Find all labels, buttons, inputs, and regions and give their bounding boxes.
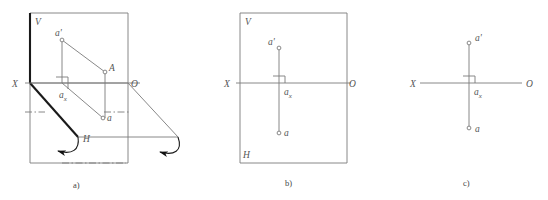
panel-c-label-a-prime: a' [475, 33, 483, 43]
figure-container: V X O a' A a H ax V H X O a' a ax X O a'… [0, 0, 548, 200]
panel-a-label-a-prime: a' [55, 28, 63, 38]
panel-b-label-axis-o: O [349, 79, 356, 89]
panel-a-label-point-A: A [108, 63, 115, 73]
panel-b-label-plane-h: H [242, 150, 251, 160]
panel-a-label-point-a: a [107, 113, 112, 123]
panel-a-fold-arrows [58, 83, 179, 153]
panel-c-caption: c) [463, 178, 470, 188]
panel-b-label-point-a: a [284, 128, 289, 138]
panel-a-bold-edge [30, 13, 78, 137]
panel-b-label-axis-x: X [223, 79, 231, 89]
panel-c-label-axis-o: O [526, 79, 533, 89]
panel-b-label-a-prime: a' [268, 37, 276, 47]
panel-c [420, 41, 522, 130]
panel-c-label-point-ax: ax [474, 87, 483, 100]
panel-a-point-markers [60, 38, 107, 120]
panel-a-label-plane-h: H [82, 134, 91, 144]
panel-a-label-axis-o: O [131, 79, 138, 89]
panel-b-label-plane-v: V [245, 17, 252, 27]
panel-a-label-plane-v: V [35, 17, 42, 27]
panel-b-plane-outline [240, 13, 347, 163]
panel-c-label-point-a: a [475, 124, 480, 134]
panel-a-dashdot-lines [25, 112, 130, 163]
panel-b-label-point-ax: ax [284, 87, 293, 100]
panel-a-plane-h-outline [30, 83, 128, 163]
panel-c-label-axis-x: X [409, 79, 417, 89]
panel-b-caption: b) [285, 178, 292, 188]
panel-b [236, 13, 351, 163]
projection-diagram: V X O a' A a H ax V H X O a' a ax X O a'… [0, 0, 548, 200]
panel-a-label-axis-x: X [11, 79, 19, 89]
panel-a-caption: a) [73, 180, 80, 190]
panel-a [25, 13, 179, 163]
panel-a-label-point-ax: ax [59, 90, 68, 103]
